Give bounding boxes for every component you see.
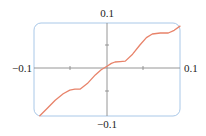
x-max-label: 0.1 xyxy=(184,62,198,74)
x-min-label: −0.1 xyxy=(12,62,32,74)
y-max-label: 0.1 xyxy=(100,7,114,19)
function-curve xyxy=(40,26,180,116)
plot: 0.1 −0.1 0.1 −0.1 xyxy=(0,0,206,136)
y-min-label: −0.1 xyxy=(97,118,117,130)
